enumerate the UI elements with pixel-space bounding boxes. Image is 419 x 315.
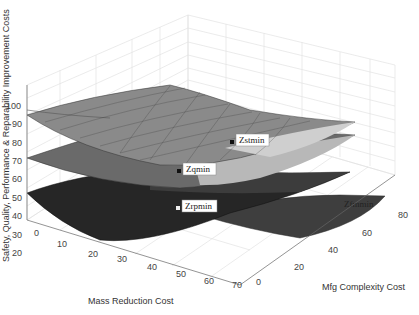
annotation-zstmin: Zstmin [230, 134, 269, 146]
x-axis-label: Mass Reduction Cost [88, 296, 174, 306]
svg-text:20: 20 [294, 262, 304, 272]
svg-text:0: 0 [256, 277, 261, 287]
svg-text:90: 90 [12, 119, 22, 129]
annotation-zrpmin: Zrpmin [176, 200, 217, 212]
svg-text:30: 30 [12, 230, 22, 240]
svg-text:Zstmin: Zstmin [239, 135, 265, 145]
svg-text:50: 50 [12, 193, 22, 203]
z-axis-label: Safety, Quality, Performance & Reparabil… [1, 9, 11, 262]
svg-text:20: 20 [12, 248, 22, 258]
svg-text:10: 10 [57, 239, 67, 249]
svg-text:50: 50 [176, 269, 186, 279]
svg-text:Zrpmin: Zrpmin [185, 201, 212, 211]
svg-text:60: 60 [362, 228, 372, 238]
svg-text:80: 80 [398, 210, 408, 220]
svg-text:70: 70 [12, 156, 22, 166]
surface-chart: Zstmin Zqmin Zrpmin Zfmmin 100 90 80 70 … [0, 0, 419, 315]
svg-text:80: 80 [12, 138, 22, 148]
svg-text:20: 20 [88, 249, 98, 259]
annotation-zqmin: Zqmin [177, 163, 216, 175]
y-axis-label: Mfg Complexity Cost [322, 282, 406, 292]
svg-text:40: 40 [147, 262, 157, 272]
svg-text:60: 60 [12, 174, 22, 184]
svg-text:60: 60 [204, 276, 214, 286]
svg-text:40: 40 [328, 245, 338, 255]
svg-text:40: 40 [12, 211, 22, 221]
svg-text:0: 0 [34, 228, 39, 238]
svg-text:Zqmin: Zqmin [186, 164, 210, 174]
svg-text:30: 30 [117, 254, 127, 264]
svg-text:70: 70 [232, 280, 242, 290]
